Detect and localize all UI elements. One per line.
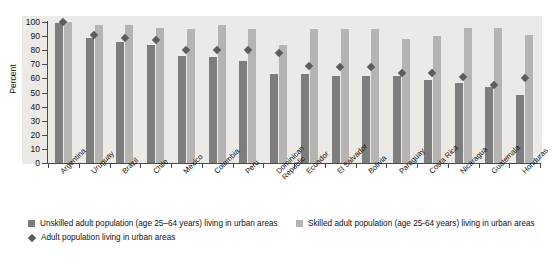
y-tick-label: 80 xyxy=(0,46,40,55)
x-tick-mark xyxy=(386,164,387,168)
x-tick-mark xyxy=(540,164,541,168)
bar-skilled xyxy=(525,35,533,163)
y-tick-label: 0 xyxy=(0,159,40,168)
bar-unskilled xyxy=(239,61,247,163)
legend-label-unskilled: Unskilled adult population (age 25–64 ye… xyxy=(40,219,278,230)
y-tick-label: 20 xyxy=(0,131,40,140)
bar-skilled xyxy=(464,28,472,163)
bar-unskilled xyxy=(55,23,63,163)
y-tick-label: 60 xyxy=(0,74,40,83)
x-tick-mark xyxy=(448,164,449,168)
bar-skilled xyxy=(125,25,133,163)
y-tick-label: 30 xyxy=(0,117,40,126)
x-tick-mark xyxy=(233,164,234,168)
x-tick-mark xyxy=(79,164,80,168)
bar-unskilled xyxy=(209,57,217,163)
plot-area xyxy=(48,22,540,163)
x-tick-mark xyxy=(140,164,141,168)
y-tick-label: 90 xyxy=(0,32,40,41)
legend-item-skilled: Skilled adult population (age 25-64 year… xyxy=(296,219,546,230)
y-tick-label: 10 xyxy=(0,145,40,154)
bar-unskilled xyxy=(270,74,278,163)
bar-skilled xyxy=(433,36,441,163)
bar-skilled xyxy=(218,25,226,163)
bar-unskilled xyxy=(86,38,94,163)
x-tick-mark xyxy=(509,164,510,168)
bar-unskilled xyxy=(332,76,340,163)
chart-figure: Percent 0102030405060708090100 Argentina… xyxy=(0,0,553,264)
y-tick-label: 70 xyxy=(0,60,40,69)
x-tick-mark xyxy=(171,164,172,168)
x-tick-mark xyxy=(356,164,357,168)
bar-skilled xyxy=(95,25,103,163)
bar-unskilled xyxy=(147,45,155,163)
legend-label-skilled: Skilled adult population (age 25-64 year… xyxy=(308,219,535,230)
legend-item-adult-population: Adult population living in urban areas xyxy=(28,233,288,244)
x-tick-mark xyxy=(110,164,111,168)
bar-skilled xyxy=(341,29,349,163)
legend-label-adult-population: Adult population living in urban areas xyxy=(41,233,175,244)
bar-unskilled xyxy=(116,42,124,163)
bar-unskilled xyxy=(178,56,186,163)
bar-skilled xyxy=(494,28,502,163)
x-tick-mark xyxy=(479,164,480,168)
bar-skilled xyxy=(402,39,410,163)
bar-skilled xyxy=(310,29,318,163)
diamond-swatch-icon xyxy=(28,234,36,242)
bar-skilled xyxy=(371,29,379,163)
x-tick-mark xyxy=(263,164,264,168)
x-tick-mark xyxy=(48,164,49,168)
y-tick-label: 100 xyxy=(0,18,40,27)
bar-unskilled xyxy=(393,76,401,163)
unskilled-swatch-icon xyxy=(28,220,35,227)
bar-skilled xyxy=(64,22,72,163)
y-tick-label: 50 xyxy=(0,89,40,98)
bar-skilled xyxy=(279,45,287,163)
legend-item-unskilled: Unskilled adult population (age 25–64 ye… xyxy=(28,219,288,230)
bar-skilled xyxy=(156,28,164,163)
skilled-swatch-icon xyxy=(296,220,303,227)
x-tick-mark xyxy=(202,164,203,168)
y-tick-label: 40 xyxy=(0,103,40,112)
x-tick-mark xyxy=(417,164,418,168)
x-tick-mark xyxy=(325,164,326,168)
